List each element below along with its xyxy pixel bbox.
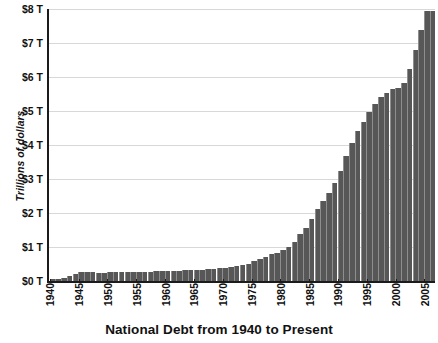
bar-1951: [113, 272, 118, 281]
bar-1997: [378, 97, 383, 281]
x-tick-label-1990: 1990: [332, 283, 344, 306]
bar-1992: [349, 143, 354, 281]
bar-1967: [205, 269, 210, 281]
x-axis-tick-labels: 1940194519501955196019651970197519801985…: [47, 283, 433, 323]
bar-1979: [274, 253, 279, 281]
x-tick-label-1975: 1975: [246, 283, 258, 306]
bar-1991: [343, 156, 348, 281]
chart-title: National Debt from 1940 to Present: [0, 322, 438, 337]
bar-1993: [355, 131, 360, 281]
bar-1962: [176, 271, 181, 281]
bar-2004: [418, 30, 423, 281]
bar-1996: [372, 104, 377, 281]
bars-layer: [49, 9, 435, 281]
y-tick-label-6T: $6 T: [0, 71, 43, 83]
y-axis-tick-labels: $0 T$1 T$2 T$3 T$4 T$5 T$6 T$7 T$8 T: [0, 0, 46, 343]
bar-1954: [130, 272, 135, 281]
bar-1982: [292, 242, 297, 281]
x-tick-label-1950: 1950: [102, 283, 114, 306]
bar-1958: [153, 271, 158, 281]
bar-1986: [315, 209, 320, 281]
bar-1995: [366, 112, 371, 281]
y-tick-label-8T: $8 T: [0, 3, 43, 15]
bar-1952: [119, 272, 124, 281]
bar-1949: [101, 273, 106, 282]
x-tick-label-1980: 1980: [275, 283, 287, 306]
bar-1969: [217, 268, 222, 281]
bar-1977: [263, 257, 268, 281]
bar-1976: [257, 259, 262, 281]
bar-1953: [125, 272, 130, 281]
bar-1968: [211, 269, 216, 281]
y-tick-label-3T: $3 T: [0, 173, 43, 185]
bar-1964: [188, 270, 193, 281]
bar-1984: [303, 228, 308, 281]
bar-1981: [286, 247, 291, 281]
bar-1956: [142, 272, 147, 281]
bar-1972: [234, 266, 239, 281]
bar-1978: [269, 254, 274, 281]
bar-1943: [67, 276, 72, 281]
bar-1942: [61, 278, 66, 281]
national-debt-bar-chart: Trillions of dollars $0 T$1 T$2 T$3 T$4 …: [0, 0, 438, 343]
bar-1983: [297, 234, 302, 281]
bar-1957: [148, 272, 153, 281]
bar-1971: [228, 267, 233, 281]
bar-1944: [73, 274, 78, 281]
x-tick-label-2005: 2005: [419, 283, 431, 306]
bar-2002: [407, 69, 412, 281]
y-tick-label-4T: $4 T: [0, 139, 43, 151]
bar-2003: [413, 50, 418, 281]
y-tick-label-0T: $0 T: [0, 275, 43, 287]
bar-1961: [171, 271, 176, 281]
bar-1974: [246, 264, 251, 281]
bar-1980: [280, 250, 285, 281]
y-tick-label-2T: $2 T: [0, 207, 43, 219]
bar-1989: [332, 183, 337, 281]
bar-1999: [390, 89, 395, 281]
bar-1948: [96, 273, 101, 282]
bar-2006: [430, 11, 435, 281]
y-tick-label-5T: $5 T: [0, 105, 43, 117]
x-tick-label-1955: 1955: [131, 283, 143, 306]
plot-area: [47, 9, 435, 283]
x-tick-label-1945: 1945: [73, 283, 85, 306]
bar-1973: [240, 265, 245, 281]
x-tick-label-1965: 1965: [188, 283, 200, 306]
bar-1946: [84, 272, 89, 281]
bar-1994: [361, 122, 366, 281]
bar-1987: [320, 201, 325, 281]
x-tick-label-1970: 1970: [217, 283, 229, 306]
bar-1941: [55, 279, 60, 281]
y-tick-label-7T: $7 T: [0, 37, 43, 49]
bar-2000: [395, 88, 400, 281]
bar-1998: [384, 93, 389, 281]
x-tick-label-1940: 1940: [44, 283, 56, 306]
bar-2005: [424, 11, 429, 281]
bar-1959: [159, 271, 164, 281]
x-tick-label-1995: 1995: [361, 283, 373, 306]
bar-2001: [401, 83, 406, 281]
x-tick-label-1960: 1960: [160, 283, 172, 306]
bar-1947: [90, 272, 95, 281]
x-tick-label-2000: 2000: [390, 283, 402, 306]
bar-1963: [182, 270, 187, 281]
x-tick-label-1985: 1985: [304, 283, 316, 306]
bar-1988: [326, 193, 331, 281]
bar-1966: [199, 270, 204, 281]
y-tick-label-1T: $1 T: [0, 241, 43, 253]
bar-1985: [309, 219, 314, 281]
bar-1990: [338, 171, 343, 281]
